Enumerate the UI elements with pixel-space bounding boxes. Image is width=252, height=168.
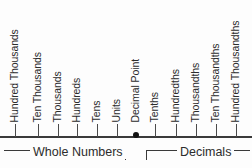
- tick-ten-thousandths: [216, 124, 217, 137]
- place-label-decimal-point: Decimal Point: [130, 59, 141, 122]
- group-label-decimals: Decimals: [177, 146, 234, 159]
- group-label-whole-numbers: Whole Numbers: [30, 146, 126, 159]
- tick-hundred-thousands: [15, 124, 16, 137]
- place-label-units: Units: [111, 99, 122, 122]
- place-label-hundredths: Hundredths: [170, 69, 181, 122]
- place-label-thousands: Thousands: [52, 71, 63, 122]
- place-label-tens: Tens: [91, 100, 102, 122]
- tick-ten-thousands: [38, 124, 39, 137]
- decimal-point-marker: [133, 132, 139, 138]
- tick-tens: [97, 124, 98, 137]
- tick-hundred-thousandths: [236, 124, 237, 137]
- place-label-hundred-thousandths: Hundred Thousandths: [230, 20, 241, 122]
- tick-thousandths: [196, 124, 197, 137]
- tick-hundreds: [77, 124, 78, 137]
- tick-tenths: [155, 124, 156, 137]
- tick-hundredths: [176, 124, 177, 137]
- place-label-tenths: Tenths: [149, 92, 160, 122]
- place-value-chart: Hundred ThousandsTen ThousandsThousandsH…: [0, 0, 252, 168]
- place-label-thousandths: Thousandths: [190, 62, 201, 122]
- place-label-ten-thousandths: Ten Thousandths: [210, 43, 221, 122]
- tick-units: [117, 124, 118, 137]
- place-label-hundreds: Hundreds: [71, 77, 82, 122]
- place-label-hundred-thousands: Hundred Thousands: [9, 29, 20, 122]
- place-label-ten-thousands: Ten Thousands: [32, 52, 43, 122]
- tick-thousands: [58, 124, 59, 137]
